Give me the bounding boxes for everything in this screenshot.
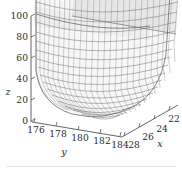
- x-tick-label-28: 28: [128, 139, 140, 150]
- z-tick-mark: [31, 35, 35, 37]
- x-tick-label-26: 26: [142, 131, 154, 142]
- z-tick-mark: [31, 98, 35, 100]
- z-tick-mark: [31, 56, 35, 58]
- z-tick-label-40: 40: [16, 73, 28, 84]
- z-axis-title: z: [4, 86, 11, 97]
- z-axis: 100 80 60 40 20 0 z: [4, 10, 35, 126]
- plot-canvas: 100 80 60 40 20 0 z 176 178 180 182 184 …: [0, 0, 182, 170]
- y-tick-label-180: 180: [71, 132, 89, 143]
- y-axis-title: y: [60, 146, 67, 157]
- footer-divider: [6, 166, 176, 167]
- y-tick-label-176: 176: [27, 124, 45, 135]
- y-axis: 176 178 180 182 184 y: [27, 118, 129, 157]
- y-tick-mark: [120, 132, 121, 136]
- y-tick-mark: [34, 118, 35, 122]
- x-tick-label-22: 22: [168, 113, 180, 124]
- z-tick-label-60: 60: [16, 52, 28, 63]
- x-tick-label-24: 24: [156, 123, 168, 134]
- x-axis-title: x: [157, 138, 163, 149]
- y-tick-label-178: 178: [49, 128, 67, 139]
- z-tick-mark: [31, 77, 35, 79]
- z-tick-label-80: 80: [16, 31, 28, 42]
- y-tick-mark: [56, 122, 57, 126]
- surface-group: [34, 0, 178, 119]
- y-tick-label-184: 184: [111, 139, 129, 150]
- y-tick-label-182: 182: [93, 135, 111, 146]
- z-tick-label-100: 100: [10, 10, 28, 21]
- z-tick-label-20: 20: [16, 94, 28, 105]
- y-tick-mark: [100, 129, 101, 133]
- surface-plot-figure: 100 80 60 40 20 0 z 176 178 180 182 184 …: [0, 0, 182, 170]
